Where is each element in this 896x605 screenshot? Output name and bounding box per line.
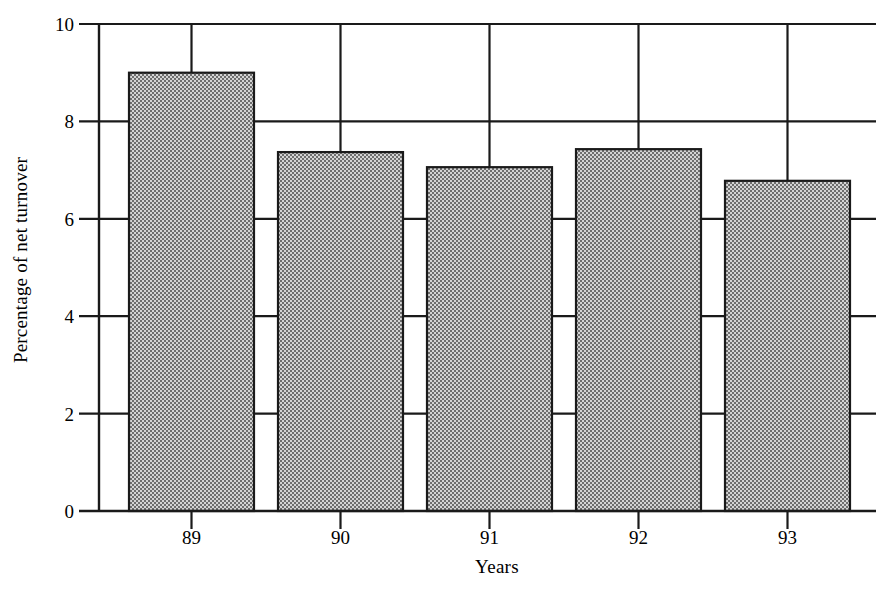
bar-fill bbox=[129, 73, 254, 511]
bar[interactable] bbox=[427, 167, 552, 511]
bar-fill bbox=[278, 152, 403, 511]
bar-chart: Percentage of net turnover 0246810 89909… bbox=[0, 0, 896, 605]
bar-fill bbox=[576, 149, 701, 511]
bar[interactable] bbox=[129, 73, 254, 511]
bar[interactable] bbox=[576, 149, 701, 511]
bar-fill bbox=[725, 181, 850, 511]
bar[interactable] bbox=[725, 181, 850, 511]
bar[interactable] bbox=[278, 152, 403, 511]
plot-area bbox=[0, 0, 896, 605]
bar-fill bbox=[427, 167, 552, 511]
